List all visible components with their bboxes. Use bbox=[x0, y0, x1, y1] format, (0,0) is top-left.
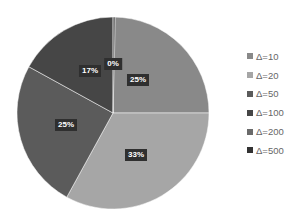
data-label-delta-20: 33% bbox=[125, 149, 147, 161]
legend-item-delta-500: Δ=500 bbox=[247, 141, 284, 160]
legend-swatch bbox=[247, 110, 253, 116]
legend-label: Δ=500 bbox=[256, 145, 284, 156]
legend-item-delta-200: Δ=200 bbox=[247, 122, 284, 141]
chart-legend: Δ=10 Δ=20 Δ=50 Δ=100 Δ=200 Δ=500 bbox=[247, 47, 284, 160]
legend-item-delta-50: Δ=50 bbox=[247, 85, 284, 104]
legend-label: Δ=200 bbox=[256, 126, 284, 137]
legend-item-delta-100: Δ=100 bbox=[247, 103, 284, 122]
legend-label: Δ=20 bbox=[256, 70, 278, 81]
legend-label: Δ=100 bbox=[256, 107, 284, 118]
legend-swatch bbox=[247, 72, 253, 78]
legend-label: Δ=50 bbox=[256, 88, 278, 99]
legend-swatch bbox=[247, 53, 253, 59]
data-label-delta-10: 25% bbox=[127, 74, 149, 86]
data-label-delta-100: 17% bbox=[79, 65, 101, 77]
data-label-delta-200: 0% bbox=[104, 58, 122, 70]
data-label-delta-50: 25% bbox=[55, 119, 77, 131]
legend-label: Δ=10 bbox=[256, 51, 278, 62]
legend-swatch bbox=[247, 91, 253, 97]
pie-slices bbox=[17, 17, 209, 209]
legend-swatch bbox=[247, 129, 253, 135]
legend-item-delta-10: Δ=10 bbox=[247, 47, 284, 66]
legend-item-delta-20: Δ=20 bbox=[247, 66, 284, 85]
legend-swatch bbox=[247, 147, 253, 153]
pie-slice-delta-10 bbox=[113, 17, 209, 113]
